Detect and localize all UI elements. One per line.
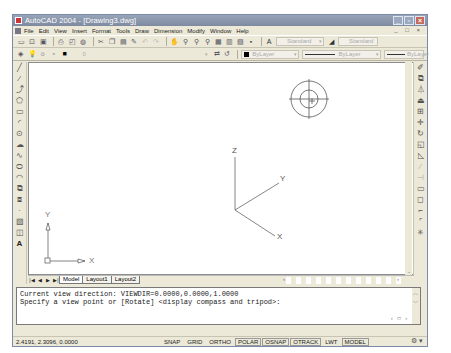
color-dropdown[interactable]: ByLayer ▾ — [241, 50, 298, 59]
explode-icon[interactable]: ✳ — [415, 228, 427, 238]
move-icon[interactable]: ✛ — [415, 118, 427, 128]
zoom-window-icon[interactable]: ⚲ — [192, 38, 200, 46]
erase-icon[interactable]: ✐ — [415, 63, 427, 73]
canvas-horizontal-scrollbar[interactable]: ‹ › — [281, 277, 401, 284]
polar-toggle[interactable]: POLAR — [235, 338, 261, 346]
region-icon[interactable]: ◫ — [14, 228, 26, 238]
tab-model[interactable]: Model — [59, 276, 83, 284]
hatch-icon[interactable]: ▨ — [14, 217, 26, 227]
layer-dropdown[interactable]: 0 ▾ — [72, 50, 210, 59]
menu-format[interactable]: Format — [92, 28, 111, 34]
document-icon[interactable] — [15, 28, 21, 34]
close-button[interactable]: × — [415, 16, 425, 25]
insert-block-icon[interactable]: ⧉ — [14, 184, 26, 194]
title-bar[interactable]: AutoCAD 2004 - [Drawing3.dwg] _ ▫ × — [13, 15, 427, 26]
command-line-window[interactable]: Current view direction: VIEWDIR=0.0000,0… — [16, 287, 421, 325]
spline-icon[interactable]: ∿ — [14, 151, 26, 161]
zoom-previous-icon[interactable]: ⚲ — [203, 38, 211, 46]
extend-icon[interactable]: ⊣ — [415, 173, 427, 183]
menu-window[interactable]: Window — [210, 28, 231, 34]
mirror-icon[interactable]: ⏃ — [415, 85, 427, 95]
scroll-down-icon[interactable]: ⌄ — [405, 268, 412, 274]
menu-dimension[interactable]: Dimension — [154, 28, 182, 34]
polygon-icon[interactable]: ⬠ — [14, 96, 26, 106]
make-block-icon[interactable]: ⧈ — [14, 195, 26, 205]
canvas-vertical-scrollbar[interactable]: ⌄ — [405, 62, 412, 275]
previous-tab-icon[interactable]: ◀ — [36, 277, 44, 283]
grid-toggle[interactable]: GRID — [184, 338, 205, 346]
text-style-dropdown[interactable]: Standard ▾ — [276, 37, 324, 46]
chamfer-icon[interactable]: ⌐ — [415, 206, 427, 216]
layer-manager-icon[interactable]: ◈ — [17, 50, 25, 58]
save-icon[interactable]: ▣ — [39, 38, 47, 46]
multiline-text-icon[interactable]: A — [14, 239, 26, 249]
line-icon[interactable]: ╱ — [14, 63, 26, 73]
ellipse-arc-icon[interactable]: ◠ — [14, 173, 26, 183]
print-preview-icon[interactable]: ◰ — [68, 38, 76, 46]
menu-edit[interactable]: Edit — [39, 28, 49, 34]
lineweight-dropdown[interactable]: ByLayer — [384, 50, 424, 59]
menu-help[interactable]: Help — [236, 28, 248, 34]
arc-icon[interactable]: ◜ — [14, 118, 26, 128]
break-icon[interactable]: ▭ — [415, 184, 427, 194]
menu-view[interactable]: View — [54, 28, 67, 34]
next-tab-icon[interactable]: ▶ — [44, 277, 52, 283]
fillet-icon[interactable]: ⌜ — [415, 217, 427, 227]
open-icon[interactable]: ⊡ — [28, 38, 36, 46]
undo-icon[interactable]: ↶ — [141, 38, 149, 46]
lwt-toggle[interactable]: LWT — [322, 338, 340, 346]
revision-cloud-icon[interactable]: ☁ — [14, 140, 26, 150]
ortho-toggle[interactable]: ORTHO — [206, 338, 234, 346]
stretch-icon[interactable]: ◺ — [415, 151, 427, 161]
new-icon[interactable]: ▭ — [17, 38, 25, 46]
publish-icon[interactable]: ◍ — [79, 38, 87, 46]
match-properties-icon[interactable]: ✎ — [130, 38, 138, 46]
layer-lock-icon[interactable]: ▫ — [50, 50, 58, 58]
osnap-toggle[interactable]: OSNAP — [262, 338, 289, 346]
autocad-app-icon[interactable] — [15, 17, 22, 24]
tab-layout1[interactable]: Layout1 — [82, 276, 111, 284]
help-icon[interactable]: ▪ — [247, 38, 255, 46]
otrack-toggle[interactable]: OTRACK — [290, 338, 321, 346]
tool-palettes-icon[interactable]: ▧ — [236, 38, 244, 46]
linetype-dropdown[interactable]: ByLayer ▾ — [302, 50, 381, 59]
layer-freeze-icon[interactable]: ☼ — [39, 50, 47, 58]
rotate-icon[interactable]: ↻ — [415, 129, 427, 139]
snap-toggle[interactable]: SNAP — [161, 338, 183, 346]
first-tab-icon[interactable]: |◀ — [28, 277, 36, 283]
break-at-point-icon[interactable]: ◻ — [415, 195, 427, 205]
tab-layout2[interactable]: Layout2 — [111, 276, 140, 284]
menu-tools[interactable]: Tools — [116, 28, 130, 34]
make-object-layer-current-icon[interactable]: ⇄ — [213, 50, 221, 58]
construction-line-icon[interactable]: ⁄ — [14, 74, 26, 84]
ellipse-icon[interactable]: ⬭ — [14, 162, 26, 172]
circle-icon[interactable]: ⊙ — [14, 129, 26, 139]
scroll-up-icon[interactable]: ︿ — [413, 289, 418, 297]
print-icon[interactable]: ⎙ — [57, 38, 65, 46]
layer-on-icon[interactable]: 💡 — [28, 50, 36, 58]
minimize-button[interactable]: _ — [393, 16, 403, 25]
menu-draw[interactable]: Draw — [135, 28, 149, 34]
scroll-right-icon[interactable]: › — [397, 276, 399, 282]
menu-modify[interactable]: Modify — [187, 28, 205, 34]
scroll-left-icon[interactable]: ‹ — [283, 276, 285, 282]
drawing-canvas[interactable]: Z Y X Y X — [28, 62, 414, 275]
zoom-realtime-icon[interactable]: ⚲ — [181, 38, 189, 46]
point-icon[interactable]: · — [14, 206, 26, 216]
scale-icon[interactable]: ◱ — [415, 140, 427, 150]
status-tray-menu-icon[interactable]: ⚙ ▾ — [411, 337, 423, 345]
model-space-toggle[interactable]: MODEL — [342, 338, 369, 346]
document-window-controls[interactable]: _ □ × — [394, 27, 423, 33]
maximize-button[interactable]: ▫ — [404, 16, 414, 25]
redo-icon[interactable]: ↷ — [152, 38, 160, 46]
design-center-icon[interactable]: ▥ — [225, 38, 233, 46]
paste-icon[interactable]: ▤ — [119, 38, 127, 46]
menu-insert[interactable]: Insert — [72, 28, 87, 34]
layer-color-icon[interactable]: ■ — [61, 50, 69, 58]
menu-file[interactable]: File — [24, 28, 34, 34]
command-line-horizontal-scroll[interactable]: ‹ ▭ › — [390, 315, 408, 323]
command-line-scrollbar[interactable]: ︿ ﹀ — [412, 288, 420, 324]
offset-icon[interactable]: ⏏ — [415, 96, 427, 106]
properties-icon[interactable]: ▦ — [214, 38, 222, 46]
scroll-down-icon[interactable]: ﹀ — [413, 300, 418, 308]
